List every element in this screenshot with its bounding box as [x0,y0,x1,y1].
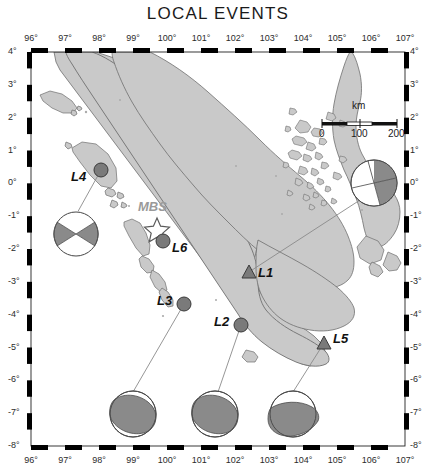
x-tick-bottom-96: 96° [24,455,38,465]
x-tick-bottom-102: 102° [226,455,245,465]
y-tick-right--8: -8° [410,440,422,450]
y-tick-left-2: 2° [8,112,17,122]
x-tick-top-96: 96° [24,33,38,43]
event-label-L1: L1 [258,265,273,280]
x-tick-bottom-99: 99° [126,455,140,465]
x-tick-top-97: 97° [58,33,72,43]
y-tick-right-3: 3° [410,79,419,89]
y-tick-right--4: -4° [410,309,422,319]
y-tick-left--5: -5° [8,342,20,352]
scalebar-tick-0: 0 [319,128,325,139]
y-tick-right--5: -5° [410,342,422,352]
y-tick-left--3: -3° [8,276,20,286]
x-tick-top-107: 107° [396,33,415,43]
x-tick-top-105: 105° [328,33,347,43]
scalebar-tick-200: 200 [388,128,405,139]
y-tick-right-2: 2° [410,112,419,122]
x-tick-bottom-105: 105° [328,455,347,465]
event-label-L4: L4 [71,169,86,184]
event-marker-L2[interactable] [234,318,248,332]
x-tick-top-106: 106° [362,33,381,43]
y-tick-right-1: 1° [410,145,419,155]
y-tick-left-1: 1° [8,145,17,155]
y-tick-right-4: 4° [410,46,419,56]
y-tick-right--6: -6° [410,374,422,384]
map-canvas [0,0,436,476]
y-tick-right--7: -7° [410,407,422,417]
y-tick-left-3: 3° [8,79,17,89]
y-tick-right--3: -3° [410,276,422,286]
x-tick-bottom-98: 98° [92,455,106,465]
scalebar-tick-100: 100 [351,128,368,139]
x-tick-top-99: 99° [126,33,140,43]
y-tick-left--8: -8° [8,440,20,450]
x-tick-top-103: 103° [260,33,279,43]
event-marker-L4[interactable] [94,163,108,177]
y-tick-left--2: -2° [8,243,20,253]
beachball-L3 [110,391,156,437]
x-tick-top-102: 102° [226,33,245,43]
beachball-L4 [53,211,98,257]
event-label-L5: L5 [333,331,348,346]
x-tick-bottom-106: 106° [362,455,381,465]
y-tick-left--1: -1° [8,210,20,220]
y-tick-right--1: -1° [410,210,422,220]
x-tick-bottom-97: 97° [58,455,72,465]
event-label-L6: L6 [172,240,187,255]
y-tick-left--7: -7° [8,407,20,417]
beachball-L1 [351,160,397,206]
y-tick-right--2: -2° [410,243,422,253]
y-tick-right-0: 0° [410,177,419,187]
y-tick-left-4: 4° [8,46,17,56]
beachball-L2 [192,391,238,437]
x-tick-bottom-107: 107° [396,455,415,465]
x-tick-top-100: 100° [158,33,177,43]
x-tick-top-104: 104° [294,33,313,43]
event-label-L3: L3 [157,293,172,308]
x-tick-bottom-103: 103° [260,455,279,465]
x-tick-bottom-100: 100° [158,455,177,465]
station-label-MBS: MBS [138,199,167,214]
event-marker-L3[interactable] [177,297,191,311]
x-tick-top-101: 101° [192,33,211,43]
y-tick-left--4: -4° [8,309,20,319]
x-tick-bottom-101: 101° [192,455,211,465]
event-label-L2: L2 [214,314,229,329]
x-tick-top-98: 98° [92,33,106,43]
scalebar-unit-label: km [352,100,365,111]
figure-title: LOCAL EVENTS [0,4,436,24]
figure-root: LOCAL EVENTS [0,0,436,476]
x-tick-bottom-104: 104° [294,455,313,465]
event-marker-L6[interactable] [156,234,170,248]
y-tick-left-0: 0° [8,177,17,187]
y-tick-left--6: -6° [8,374,20,384]
